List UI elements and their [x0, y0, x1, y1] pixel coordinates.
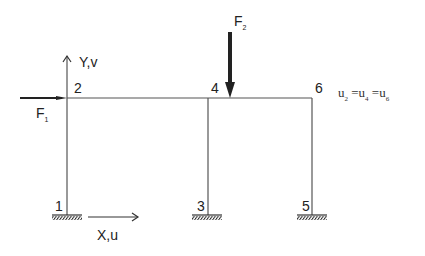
fixed-support-icon	[297, 215, 327, 220]
node-label-5: 5	[302, 199, 310, 213]
force-f2-label: F2	[234, 14, 246, 28]
fixed-support-icon	[192, 215, 222, 220]
node-label-2: 2	[74, 81, 82, 95]
fixed-support-icon	[52, 215, 82, 220]
node-label-6: 6	[315, 81, 323, 95]
y-axis-arrow-icon	[63, 56, 71, 98]
x-axis-arrow-icon	[88, 213, 138, 221]
frame-diagram	[0, 0, 425, 256]
node-label-1: 1	[55, 199, 63, 213]
force-f1-label: F1	[36, 106, 48, 120]
node-label-4: 4	[211, 81, 219, 95]
force-f1-arrow-icon	[20, 96, 67, 100]
constraint-equation: u2 =u4 =u6	[338, 86, 389, 99]
x-axis-label: X,u	[97, 228, 118, 242]
y-axis-label: Y,v	[79, 55, 97, 69]
node-label-3: 3	[197, 199, 205, 213]
force-f2-arrow-icon	[225, 32, 235, 98]
